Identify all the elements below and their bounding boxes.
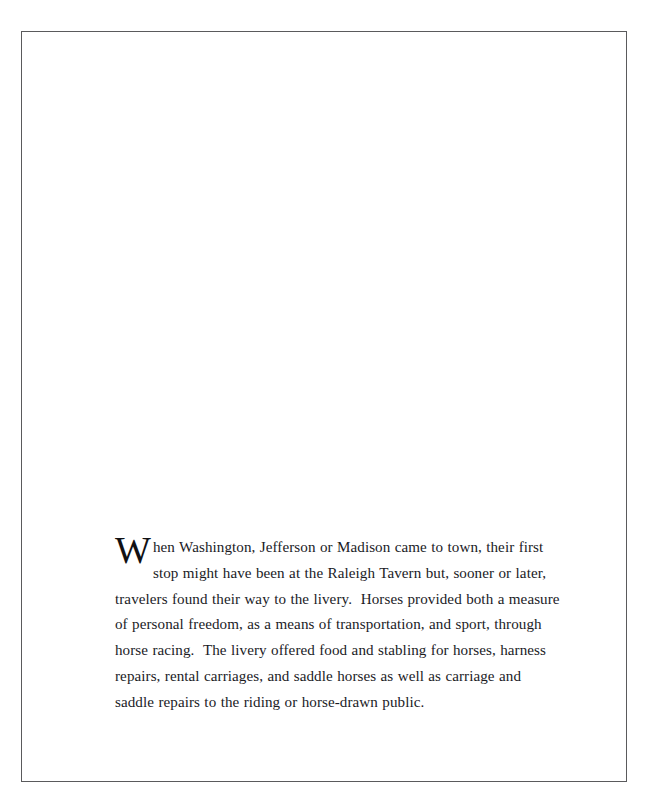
- body-text-block: When Washington, Jefferson or Madison ca…: [115, 535, 561, 716]
- page-border-frame: When Washington, Jefferson or Madison ca…: [21, 31, 627, 782]
- page-top-margin: [0, 0, 650, 30]
- scanned-page: When Washington, Jefferson or Madison ca…: [0, 0, 650, 810]
- opening-paragraph: When Washington, Jefferson or Madison ca…: [115, 535, 561, 716]
- paragraph-body-text: hen Washington, Jefferson or Madison cam…: [115, 539, 564, 710]
- page-bottom-margin: [0, 784, 650, 810]
- drop-cap-letter: W: [115, 536, 153, 565]
